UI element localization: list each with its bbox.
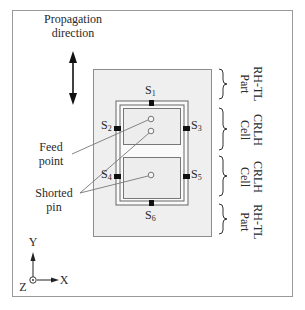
shorted-pin-top-circle <box>148 128 154 134</box>
section-line1: CRLH <box>251 114 264 146</box>
section-line2: Part <box>238 204 251 239</box>
shorted-label-line2: pin <box>28 200 80 214</box>
antenna-diagram: Propagation direction Feed point Shorted… <box>0 0 305 310</box>
slot-letter: S <box>101 167 108 181</box>
feed-label-line2: point <box>30 154 72 168</box>
shorted-label-line1: Shorted <box>28 186 80 200</box>
axis-label-x: X <box>58 273 70 287</box>
slot-s1 <box>149 100 154 106</box>
section-label-rhtl-bottom: RH-TL Part <box>238 204 264 239</box>
slot-s2 <box>114 126 121 131</box>
section-line2: Cell <box>238 114 251 146</box>
slot-s3 <box>183 126 190 131</box>
propagation-label: Propagation direction <box>40 12 106 40</box>
feed-point-circle <box>148 116 154 122</box>
slot-index: 6 <box>152 214 156 223</box>
slot-index: 4 <box>108 173 112 182</box>
slot-index: 5 <box>198 173 202 182</box>
slot-letter: S <box>191 118 198 132</box>
slot-label-s1: S1 <box>145 84 156 100</box>
shorted-pin-bottom-circle <box>148 172 154 178</box>
feed-point-label: Feed point <box>30 140 72 168</box>
slot-s5 <box>183 174 190 179</box>
slot-index: 1 <box>152 89 156 98</box>
slot-index: 2 <box>108 124 112 133</box>
slot-letter: S <box>145 208 152 222</box>
slot-label-s6: S6 <box>145 209 156 225</box>
axis-label-y: Y <box>27 235 39 249</box>
slot-letter: S <box>101 118 108 132</box>
slot-label-s2: S2 <box>101 119 112 135</box>
shorted-pin-label: Shorted pin <box>28 186 80 214</box>
slot-letter: S <box>145 83 152 97</box>
section-line1: RH-TL <box>251 204 264 239</box>
slot-label-s3: S3 <box>191 119 202 135</box>
section-line1: CRLH <box>251 161 264 193</box>
propagation-label-line1: Propagation <box>40 12 106 26</box>
section-label-rhtl-top: RH-TL Part <box>238 66 264 101</box>
section-line2: Part <box>238 66 251 101</box>
feed-label-line1: Feed <box>30 140 72 154</box>
propagation-label-line2: direction <box>40 26 106 40</box>
section-line2: Cell <box>238 161 251 193</box>
section-label-crlh-top: CRLH Cell <box>238 114 264 146</box>
slot-label-s4: S4 <box>101 168 112 184</box>
section-label-crlh-bottom: CRLH Cell <box>238 161 264 193</box>
slot-index: 3 <box>198 124 202 133</box>
slot-letter: S <box>191 167 198 181</box>
section-line1: RH-TL <box>251 66 264 101</box>
slot-label-s5: S5 <box>191 168 202 184</box>
patch-top <box>124 109 181 145</box>
slot-s6 <box>149 200 154 206</box>
slot-s4 <box>114 174 121 179</box>
axis-label-z: Z <box>17 280 29 294</box>
